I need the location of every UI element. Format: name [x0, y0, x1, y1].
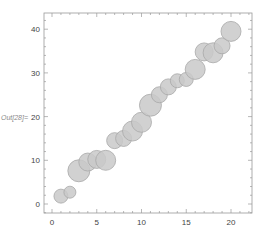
bubble-point: [221, 21, 241, 41]
x-axis-tick-labels: 05101520: [50, 218, 236, 227]
bubble-point: [64, 186, 76, 198]
y-axis-tick-labels: 010203040: [31, 25, 40, 209]
bubble-point: [185, 59, 205, 79]
x-tick-label: 15: [182, 218, 191, 227]
bubble-series: [54, 21, 241, 203]
y-tick-label: 30: [31, 69, 40, 78]
y-tick-label: 0: [36, 200, 41, 209]
bubble-chart: 05101520 010203040 Out[28]=: [0, 0, 261, 232]
bubble-point: [96, 150, 116, 170]
x-tick-label: 0: [50, 218, 55, 227]
x-tick-label: 20: [227, 218, 236, 227]
x-tick-label: 10: [137, 218, 146, 227]
y-tick-label: 10: [31, 156, 40, 165]
output-cell-label: Out[28]=: [1, 114, 28, 122]
y-tick-label: 20: [31, 113, 40, 122]
y-tick-label: 40: [31, 25, 40, 34]
x-tick-label: 5: [95, 218, 100, 227]
